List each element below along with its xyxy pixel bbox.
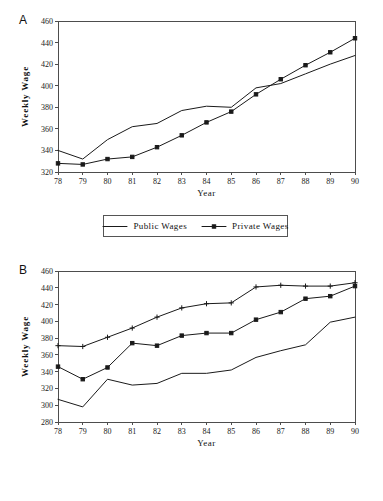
x-tick-label: 85: [227, 427, 235, 436]
x-tick-label: 84: [203, 177, 211, 186]
legend-chart-a: Public WagesPrivate Wages: [103, 215, 288, 237]
x-tick-label: 81: [128, 177, 136, 186]
y-tick-label: 360: [41, 351, 53, 360]
data-point-marker: [353, 37, 356, 40]
y-tick-label: 440: [41, 284, 53, 293]
data-point-marker: [106, 366, 109, 369]
y-tick-label: 460: [41, 17, 53, 26]
x-tick-label: 78: [54, 177, 62, 186]
data-point-marker: [204, 301, 209, 306]
panel-letter-b: B: [19, 263, 27, 277]
data-point-marker: [106, 157, 109, 160]
chart-panel-a: A 32034036038040042044046078798081828384…: [0, 0, 383, 250]
legend-label: Public Wages: [133, 221, 187, 231]
y-tick-label: 320: [41, 168, 53, 177]
y-tick-label: 440: [41, 39, 53, 48]
legend-label: Private Wages: [232, 221, 289, 231]
x-tick-label: 81: [128, 427, 136, 436]
y-tick-label: 400: [41, 82, 53, 91]
legend-entry[interactable]: Public Wages: [102, 221, 187, 232]
series-path: [58, 317, 355, 407]
x-tick-label: 82: [153, 177, 161, 186]
y-tick-label: 280: [41, 418, 53, 427]
data-point-marker: [105, 335, 110, 340]
data-point-marker: [81, 163, 84, 166]
x-tick-label: 87: [277, 427, 285, 436]
x-tick-label: 87: [277, 177, 285, 186]
x-axis-ticks: 78798081828384858687888990: [54, 172, 359, 186]
x-axis-title: Year: [197, 188, 216, 198]
x-tick-label: 79: [79, 177, 87, 186]
x-tick-label: 83: [178, 427, 186, 436]
x-axis-ticks: 78798081828384858687888990: [54, 422, 359, 436]
y-tick-label: 360: [41, 125, 53, 134]
data-point-marker: [254, 318, 257, 321]
x-tick-label: 90: [351, 177, 359, 186]
x-tick-label: 86: [252, 427, 260, 436]
data-point-marker: [230, 110, 233, 113]
data-point-marker: [329, 294, 332, 297]
series-private-wages: [56, 37, 356, 167]
y-tick-label: 300: [41, 401, 53, 410]
y-axis-title: Weekly Wage: [20, 316, 30, 377]
x-tick-label: 80: [104, 427, 112, 436]
x-tick-label: 89: [326, 427, 334, 436]
series-path: [58, 38, 355, 164]
data-point-marker: [329, 51, 332, 54]
y-tick-label: 420: [41, 60, 53, 69]
x-tick-label: 88: [302, 427, 310, 436]
data-point-marker: [56, 162, 59, 165]
x-tick-label: 89: [326, 177, 334, 186]
y-tick-label: 460: [41, 267, 53, 276]
series-path: [58, 56, 355, 160]
x-tick-label: 86: [252, 177, 260, 186]
data-point-marker: [254, 93, 257, 96]
x-tick-label: 90: [351, 427, 359, 436]
data-point-marker: [279, 78, 282, 81]
data-point-marker: [279, 310, 282, 313]
x-tick-label: 80: [104, 177, 112, 186]
data-point-marker: [180, 334, 183, 337]
data-point-marker: [304, 297, 307, 300]
legend-entry[interactable]: Private Wages: [201, 221, 289, 232]
y-tick-label: 340: [41, 368, 53, 377]
figure-root: A 32034036038040042044046078798081828384…: [0, 0, 383, 501]
y-axis-ticks: 320340360380400420440460: [41, 17, 58, 177]
data-point-marker: [180, 134, 183, 137]
data-point-marker: [80, 344, 85, 349]
series-path: [58, 283, 355, 347]
y-tick-label: 400: [41, 317, 53, 326]
chart-a-plot: 3203403603804004204404607879808182838485…: [0, 0, 383, 210]
data-point-marker: [229, 300, 234, 305]
data-point-marker: [303, 284, 308, 289]
x-tick-label: 78: [54, 427, 62, 436]
data-point-marker: [56, 365, 59, 368]
data-point-marker: [205, 331, 208, 334]
data-point-marker: [131, 155, 134, 158]
y-tick-label: 380: [41, 103, 53, 112]
data-point-marker: [230, 331, 233, 334]
data-point-marker: [253, 284, 258, 289]
data-point-marker: [155, 145, 158, 148]
chart-panel-b: B 28030032034036038040042044046078798081…: [0, 250, 383, 501]
legend-swatch-square: [201, 221, 227, 232]
data-point-marker: [179, 305, 184, 310]
chart-b-plot: 2803003203403603804004204404607879808182…: [0, 250, 383, 460]
x-tick-label: 83: [178, 177, 186, 186]
y-tick-label: 380: [41, 334, 53, 343]
x-tick-label: 85: [227, 177, 235, 186]
y-axis-ticks: 280300320340360380400420440460: [41, 267, 58, 427]
x-tick-label: 84: [203, 427, 211, 436]
series-local-wages: [56, 284, 356, 381]
series-central-wages: [58, 317, 355, 407]
data-point-marker: [154, 315, 159, 320]
panel-letter-a: A: [19, 13, 27, 27]
data-point-marker: [304, 64, 307, 67]
x-tick-label: 79: [79, 427, 87, 436]
data-point-marker: [328, 284, 333, 289]
data-point-marker: [155, 344, 158, 347]
x-axis-title: Year: [197, 438, 216, 448]
y-tick-label: 420: [41, 301, 53, 310]
series-public-wages: [58, 56, 355, 160]
y-tick-label: 340: [41, 146, 53, 155]
